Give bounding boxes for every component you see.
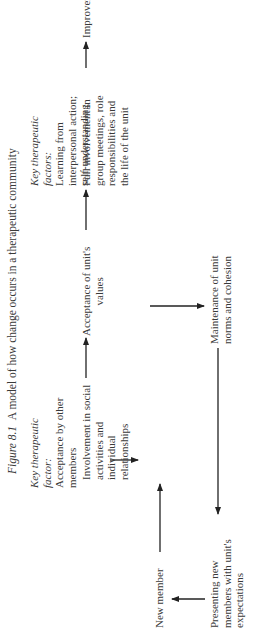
key-factor-1: Key therapeutic factor: Acceptance by ot…	[28, 398, 78, 488]
node-acceptance-line: Acceptance of unit's	[80, 247, 93, 336]
node-maintenance: Maintenance of unit norms and cohesion	[208, 255, 233, 344]
node-full-involvement-line: the life of the unit	[118, 95, 131, 186]
node-full-involvement-line: group meetings, role	[93, 95, 106, 186]
node-presenting-line: Presenting new	[208, 539, 221, 628]
node-acceptance-line: values	[93, 247, 106, 336]
node-presenting-line: expectations	[233, 539, 246, 628]
key-factor-1-heading-line1: Key therapeutic	[28, 398, 41, 488]
node-improvement-label: Improvement	[80, 0, 93, 38]
node-involvement: Involvement in social activities and ind…	[80, 385, 130, 480]
node-involvement-line: individual	[105, 385, 118, 480]
node-full-involvement-line: Full involvement in	[80, 95, 93, 186]
node-presenting-line: members with unit's	[221, 539, 234, 628]
node-full-involvement-line: responsibilities and	[105, 95, 118, 186]
node-involvement-line: relationships	[118, 385, 131, 480]
node-improvement: Improvement	[80, 0, 93, 38]
key-factor-1-line: members	[66, 398, 79, 488]
node-new-member: New member	[153, 568, 166, 628]
node-maintenance-line: Maintenance of unit	[208, 255, 221, 344]
figure-label: Figure 8.1	[6, 426, 18, 474]
node-involvement-line: Involvement in social	[80, 385, 93, 480]
diagram-canvas: Figure 8.1 A model of how change occurs …	[0, 0, 254, 634]
key-factor-2-heading-line1: Key therapeutic	[28, 96, 41, 186]
key-factor-1-heading-line2: factor:	[41, 398, 54, 488]
figure-caption: A model of how change occurs in a therap…	[6, 148, 18, 420]
node-full-involvement: Full involvement in group meetings, role…	[80, 95, 130, 186]
figure-title: Figure 8.1 A model of how change occurs …	[6, 148, 19, 474]
key-factor-1-line: Acceptance by other	[53, 398, 66, 488]
node-presenting: Presenting new members with unit's expec…	[208, 539, 246, 628]
key-factor-2-line: Learning from	[53, 96, 66, 186]
node-new-member-label: New member	[153, 568, 166, 628]
key-factor-2-heading-line2: factors:	[41, 96, 54, 186]
node-acceptance-values: Acceptance of unit's values	[80, 247, 105, 336]
key-factor-2-line: interpersonal action;	[66, 96, 79, 186]
node-involvement-line: activities and	[93, 385, 106, 480]
node-maintenance-line: norms and cohesion	[221, 255, 234, 344]
